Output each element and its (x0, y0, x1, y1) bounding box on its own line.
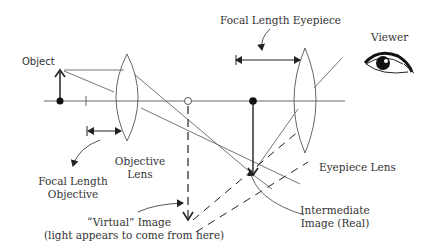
objective-focal-point (185, 98, 192, 105)
intermediate-image-label-line1: Intermediate (300, 204, 370, 217)
virtual-image-label-line2: (light appears to come from here) (44, 229, 214, 242)
focal-length-eyepiece-label: Focal Length Eyepiece (220, 14, 341, 27)
focal-length-objective-label: Focal Length Objective (38, 175, 108, 201)
microscope-ray-diagram: Object Focal Length Eyepiece Viewer Obje… (0, 0, 427, 251)
focal-length-objective-label-line2: Objective (38, 188, 108, 201)
eyepiece-lens-label: Eyepiece Lens (319, 161, 396, 174)
viewer-label: Viewer (371, 31, 408, 44)
object-label: Object (22, 55, 55, 68)
focal-length-objective-label-line1: Focal Length (38, 175, 108, 188)
intermediate-image-label-line2: Image (Real) (300, 217, 370, 230)
object-rays (64, 70, 300, 189)
intermediate-image-label: Intermediate Image (Real) (300, 204, 370, 230)
virtual-image-label: “Virtual” Image (light appears to come f… (44, 216, 214, 242)
eyepiece-rays (257, 58, 342, 167)
eye-icon (365, 53, 414, 73)
object-arrow (55, 70, 65, 105)
virtual-image-label-line1: “Virtual” Image (44, 216, 214, 229)
objective-lens-label-line2: Lens (112, 168, 168, 181)
objective-lens-label: Objective Lens (112, 155, 168, 181)
virtual-image-leader (138, 203, 183, 212)
objective-lens (116, 54, 138, 141)
objective-lens-label-line1: Objective (112, 155, 168, 168)
focal-length-eyepiece-dimension (236, 29, 300, 65)
intermediate-image-leader (250, 170, 304, 215)
